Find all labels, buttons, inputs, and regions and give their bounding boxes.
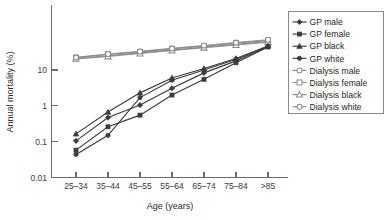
y-tick-layer: 1010.10.01 [30,65,57,183]
data-point-filled-diamond [169,86,174,91]
data-point-open-circle [170,46,175,51]
data-point-open-circle [74,55,79,60]
x-tick-label: >85 [261,181,276,191]
data-point-filled-square [106,125,110,129]
x-tick-layer: 25–3435–4445–5555–6465–7475–84>85 [64,172,275,191]
x-tick-label: 25–34 [64,181,88,191]
data-point-filled-circle [234,57,238,61]
data-point-open-circle [106,51,111,56]
x-tick-label: 55–64 [160,181,184,191]
data-point-open-circle [266,37,271,42]
data-point-filled-square [298,32,302,36]
data-point-filled-circle [202,68,206,72]
series-layer [73,37,271,156]
data-point-open-circle [297,104,302,109]
y-tick-label: 0.1 [35,137,47,147]
x-tick-label: 35–44 [96,181,120,191]
legend-label: GP female [310,29,351,39]
x-tick-label: 65–74 [192,181,216,191]
mortality-chart-figure: 1010.10.01 25–3435–4445–5555–6465–7475–8… [0,0,385,220]
legend-label: Dialysis female [310,78,368,88]
data-point-filled-square [202,77,206,81]
x-tick-label: 75–84 [224,181,248,191]
data-point-filled-circle [106,133,110,137]
data-point-filled-circle [138,95,142,99]
data-point-filled-square [138,113,142,117]
y-axis-title: Annual mortality (%) [5,51,15,132]
data-point-filled-square [74,148,78,152]
y-tick-label: 1 [42,101,47,111]
data-point-filled-triangle [105,109,110,114]
y-tick-label: 0.01 [30,173,47,183]
x-axis-title: Age (years) [147,201,194,211]
chart-legend: GP maleGP femaleGP blackGP whiteDialysis… [289,12,384,114]
data-point-filled-square [170,93,174,97]
data-point-filled-circle [170,78,174,82]
legend-label: Dialysis black [310,90,363,100]
data-point-open-square [297,80,302,85]
data-point-filled-circle [74,152,78,156]
series-line [76,47,268,150]
series-gp-female [74,45,270,152]
data-point-filled-circle [266,44,270,48]
legend-label: Dialysis male [310,66,361,76]
legend-label: GP white [310,54,345,64]
series-line [76,46,268,154]
data-point-filled-diamond [137,102,142,107]
data-point-filled-circle [297,56,301,60]
legend-label: GP black [310,41,345,51]
legend-label: GP male [310,17,343,27]
y-tick-label: 10 [38,65,48,75]
axes [52,5,289,178]
x-tick-label: 45–55 [128,181,152,191]
legend-label: Dialysis white [310,102,362,112]
data-point-open-circle [138,49,143,54]
data-point-open-circle [234,40,239,45]
data-point-open-circle [297,68,302,73]
data-point-open-circle [202,43,207,48]
chart-canvas: 1010.10.01 25–3435–4445–5555–6465–7475–8… [0,0,385,220]
